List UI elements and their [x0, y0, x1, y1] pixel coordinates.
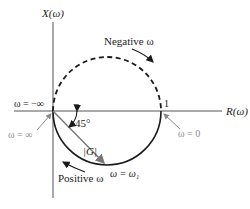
magnitude-label: |G|	[83, 145, 97, 157]
omega-zero-label: ω = 0	[178, 128, 200, 139]
omega-infinity-pointer	[37, 114, 51, 130]
polar-plot-diagram: X(ω) R(ω) |G| 45° Negative ω Positive ω …	[0, 0, 250, 209]
negative-omega-arrow	[132, 49, 153, 62]
omega-infinity-label: ω = ∞	[8, 129, 32, 140]
positive-omega-arrow	[63, 162, 85, 172]
vertical-axis-label: X(ω)	[41, 7, 64, 20]
horizontal-axis-label: R(ω)	[225, 105, 248, 118]
positive-frequency-curve	[53, 111, 161, 165]
omega-one-label: ω = ω₁	[110, 168, 139, 179]
negative-frequency-curve	[53, 57, 161, 111]
angle-label: 45°	[75, 117, 90, 129]
omega-zero-pointer	[164, 114, 180, 129]
positive-omega-label: Positive ω	[58, 172, 103, 184]
unit-point-label: 1	[164, 98, 169, 109]
omega-negative-infinity-label: ω = −∞	[14, 98, 44, 109]
negative-omega-label: Negative ω	[104, 35, 154, 47]
